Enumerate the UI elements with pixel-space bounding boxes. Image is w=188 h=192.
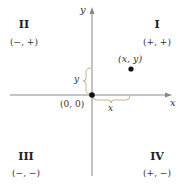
quadrant-3-signs: (−, −) xyxy=(6,168,46,178)
quadrant-2-signs: (−, +) xyxy=(4,37,44,47)
y-axis-arrow-icon xyxy=(90,7,95,14)
quadrant-4-numeral: IV xyxy=(137,150,177,163)
x-brace xyxy=(93,96,130,103)
xy-point xyxy=(128,66,133,71)
origin-point xyxy=(89,92,95,98)
point-label: (x, y) xyxy=(118,53,142,64)
y-axis-label: y xyxy=(80,4,86,15)
quadrant-1-signs: (+, +) xyxy=(137,37,177,47)
x-axis-label: x xyxy=(170,97,176,108)
origin-label: (0, 0) xyxy=(60,99,84,109)
quadrant-4-signs: (+, −) xyxy=(137,168,177,178)
x-brace-label: x xyxy=(108,103,113,113)
y-brace xyxy=(83,68,91,94)
quadrant-2-numeral: II xyxy=(4,18,44,31)
y-brace-label: y xyxy=(74,74,79,84)
quadrant-3-numeral: III xyxy=(6,150,46,163)
quadrant-1-numeral: I xyxy=(137,18,177,31)
